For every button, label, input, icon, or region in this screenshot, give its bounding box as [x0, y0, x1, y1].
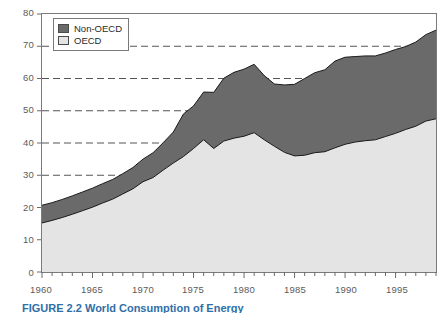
figure-container: 80 70 60 50 40 30 20 10 0 1960 1965 1970… — [0, 0, 447, 313]
x-tick-label-1990: 1990 — [329, 284, 363, 295]
x-tick-label-1960: 1960 — [24, 284, 58, 295]
y-tick-label-40: 40 — [8, 137, 34, 148]
plot-area — [41, 13, 437, 273]
y-tick-label-80: 80 — [8, 7, 34, 18]
x-tick-label-1980: 1980 — [227, 284, 261, 295]
legend-label-oecd: OECD — [74, 35, 101, 46]
y-tick-label-70: 70 — [8, 39, 34, 50]
legend-swatch-icon-non-oecd — [58, 24, 69, 33]
legend-item-non-oecd: Non-OECD — [58, 23, 122, 34]
figure-caption: FIGURE 2.2 World Consumption of Energy — [22, 303, 244, 313]
y-tick-label-10: 10 — [8, 234, 34, 245]
y-tick-label-50: 50 — [8, 104, 34, 115]
chart-legend: Non-OECD OECD — [53, 18, 129, 51]
y-tick-label-20: 20 — [8, 202, 34, 213]
x-tick-label-1970: 1970 — [126, 284, 160, 295]
x-tick-label-1995: 1995 — [380, 284, 414, 295]
y-tick-label-30: 30 — [8, 169, 34, 180]
y-tick-label-0: 0 — [8, 267, 34, 278]
x-tick-label-1985: 1985 — [278, 284, 312, 295]
y-tick-label-60: 60 — [8, 72, 34, 83]
x-tick-label-1965: 1965 — [75, 284, 109, 295]
legend-swatch-icon-oecd — [58, 36, 69, 45]
legend-label-non-oecd: Non-OECD — [74, 23, 122, 34]
legend-item-oecd: OECD — [58, 35, 122, 46]
area-chart-svg — [42, 14, 436, 272]
x-tick-label-1975: 1975 — [176, 284, 210, 295]
